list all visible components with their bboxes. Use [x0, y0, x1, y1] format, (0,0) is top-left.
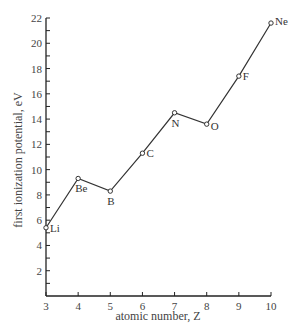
x-tick-label: 4 — [75, 300, 81, 312]
y-tick-label: 12 — [31, 138, 42, 150]
data-point-label: B — [107, 195, 114, 207]
data-point-label: Be — [75, 182, 87, 194]
y-tick-label: 14 — [31, 113, 43, 125]
axes: 246810121416182022345678910 — [31, 12, 277, 312]
x-tick-label: 3 — [43, 300, 49, 312]
y-tick-label: 2 — [37, 265, 43, 277]
data-point-marker — [205, 122, 209, 126]
y-tick-label: 10 — [31, 164, 43, 176]
data-point-label: C — [146, 147, 153, 159]
data-point-marker — [269, 21, 273, 25]
data-point-label: Ne — [275, 15, 288, 27]
y-tick-label: 6 — [37, 214, 43, 226]
data-point-marker — [108, 189, 112, 193]
data-point-label: F — [243, 70, 249, 82]
x-tick-label: 5 — [108, 300, 114, 312]
x-tick-label: 9 — [236, 300, 242, 312]
y-tick-label: 22 — [31, 12, 42, 24]
data-point-marker — [237, 74, 241, 78]
y-tick-label: 18 — [31, 63, 43, 75]
y-tick-label: 20 — [31, 37, 43, 49]
data-series: LiBeBCNOFNe — [44, 15, 288, 234]
data-point-label: O — [211, 120, 219, 132]
x-tick-label: 10 — [266, 300, 278, 312]
data-point-marker — [76, 176, 80, 180]
x-axis-title: atomic number, Z — [115, 309, 200, 323]
data-point-label: N — [172, 117, 180, 129]
x-tick-label: 8 — [204, 300, 210, 312]
data-point-marker — [44, 226, 48, 230]
data-point-marker — [172, 111, 176, 115]
data-point-marker — [140, 151, 144, 155]
data-point-label: Li — [50, 222, 60, 234]
y-tick-label: 4 — [37, 239, 43, 251]
y-axis-title: first ionization potential, eV — [11, 92, 25, 228]
y-tick-label: 16 — [31, 88, 43, 100]
series-line — [46, 23, 271, 228]
y-tick-label: 8 — [37, 189, 43, 201]
ionization-chart: 246810121416182022345678910 LiBeBCNOFNe … — [0, 0, 296, 327]
